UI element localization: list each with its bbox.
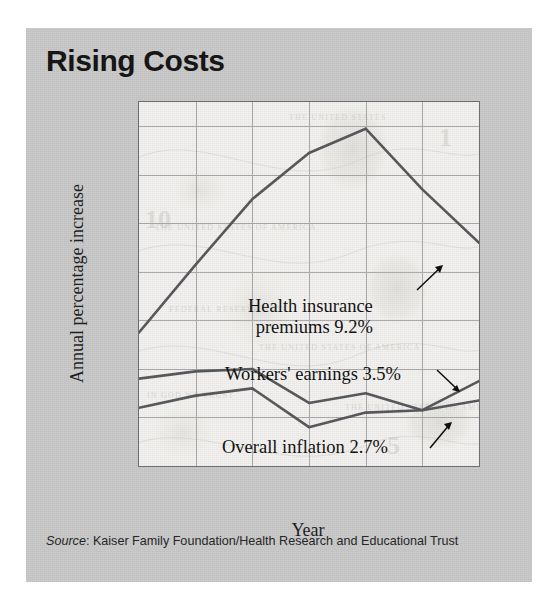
annotation-arrows <box>26 28 532 582</box>
arrow-workers-earnings <box>437 370 458 390</box>
arrow-health-insurance <box>417 267 441 290</box>
arrow-overall-inflation <box>430 424 450 448</box>
chart-figure: Rising Costs Annual percentage increase <box>26 28 532 582</box>
